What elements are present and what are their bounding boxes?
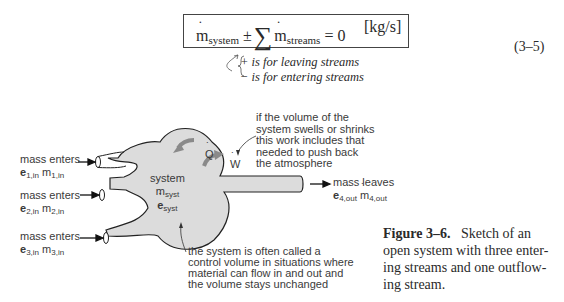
work-note-line: if the volume of the <box>256 112 375 124</box>
outlet-label: mass leaves e4,out m4,out <box>333 176 394 203</box>
inlet-3-text: mass enters <box>20 230 80 243</box>
figure-label: Figure 3–6. <box>383 226 450 241</box>
system-label: system msyst esyst <box>150 172 185 213</box>
inlet-2-e-sub: 2,in <box>26 207 39 216</box>
inlet-1-text: mass enters <box>20 153 80 166</box>
inlet-1-label: mass enters e1,in m1,in <box>20 153 80 180</box>
work-symbol: W <box>230 158 240 171</box>
figure-caption: Figure 3–6. Sketch of an open system wit… <box>383 225 563 293</box>
system-title: system <box>150 172 185 185</box>
inlet-3-m-sub: 3,in <box>51 248 64 257</box>
heat-symbol: Q <box>205 148 214 161</box>
note-pointer-icon <box>227 55 238 71</box>
sign-notes: + is for leaving streams − is for enteri… <box>240 55 364 85</box>
inlet-2-m-sub: 2,in <box>51 207 64 216</box>
inlet-2-m: m <box>42 202 51 215</box>
control-volume-note: the system is often called a control vol… <box>188 246 354 290</box>
inlet-1-m-sub: 1,in <box>51 171 64 180</box>
inlet-2-label: mass enters e2,in m2,in <box>20 189 80 216</box>
inlet-2-text: mass enters <box>20 189 80 202</box>
note-leaving: + is for leaving streams <box>240 55 364 70</box>
outlet-m: m <box>360 189 369 202</box>
note-entering: − is for entering streams <box>240 70 364 85</box>
caption-line: ing stream. <box>383 276 563 293</box>
inlet-3-e-sub: 3,in <box>26 248 39 257</box>
outlet-e-sub: 4,out <box>339 194 357 203</box>
inlet-1-e-sub: 1,in <box>26 171 39 180</box>
work-note-pointer-icon <box>238 136 256 152</box>
inlet-3-label: mass enters e3,in m3,in <box>20 230 80 257</box>
system-e-sub: syst <box>163 204 177 213</box>
inlet-3-m: m <box>42 243 51 256</box>
inlet-1-m: m <box>42 166 51 179</box>
outlet-m-sub: 4,out <box>369 194 387 203</box>
work-note-line: this work includes that <box>256 135 375 147</box>
caption-line: Sketch of an <box>461 226 531 241</box>
w-dot: W <box>230 158 240 171</box>
cv-note-line: the volume stays unchanged <box>188 279 354 290</box>
system-m-sub: syst <box>165 190 179 199</box>
caption-line: ing streams and one outflow- <box>383 259 563 276</box>
work-note: if the volume of the system swells or sh… <box>256 112 375 170</box>
work-note-line: the atmosphere <box>256 158 375 170</box>
q-dot: Q <box>205 148 214 161</box>
caption-line: open system with three enter- <box>383 242 563 259</box>
